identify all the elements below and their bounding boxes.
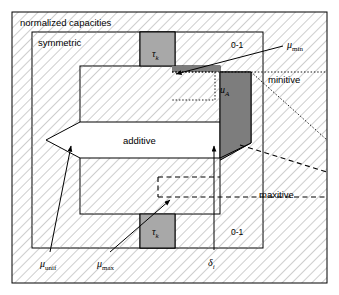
tau-top-sub: k xyxy=(156,54,159,62)
mu-max-sub: max xyxy=(102,264,114,272)
label-tau-k-bottom: τk xyxy=(152,227,159,240)
capacity-classes-diagram: normalized capacities symmetric additive… xyxy=(0,0,339,295)
label-delta-i: δi xyxy=(208,258,215,271)
label-mu-unif: μunif xyxy=(40,259,56,272)
label-minitive: minitive xyxy=(268,75,300,85)
label-symmetric: symmetric xyxy=(38,38,81,48)
label-normalized-capacities: normalized capacities xyxy=(20,18,111,28)
label-maxitive: maxitive xyxy=(259,190,294,200)
label-additive: additive xyxy=(123,136,156,146)
delta-i-sub: i xyxy=(213,263,215,271)
label-u-a: uA xyxy=(220,85,229,98)
label-mu-min: μmin xyxy=(287,40,303,53)
u-a-sub: A xyxy=(225,90,229,98)
label-zero-one-bottom: 0-1 xyxy=(231,228,243,237)
label-tau-k-top: τk xyxy=(152,49,159,62)
label-zero-one-top: 0-1 xyxy=(231,41,243,50)
mu-min-sub: min xyxy=(292,45,303,53)
label-mu-max: μmax xyxy=(97,259,114,272)
mu-unif-sub: unif xyxy=(45,264,56,272)
tau-bottom-sub: k xyxy=(156,232,159,240)
